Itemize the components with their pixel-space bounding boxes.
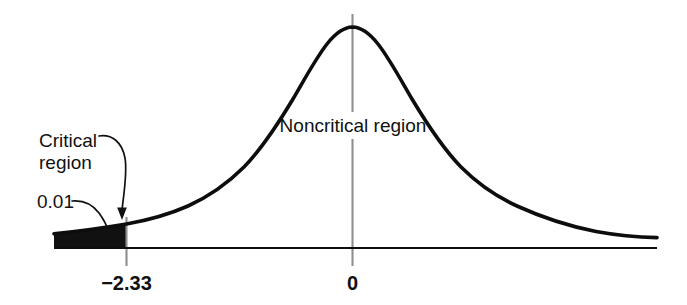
noncritical-region-label: Noncritical region	[280, 115, 427, 136]
alpha-value-label: 0.01	[37, 191, 74, 212]
x-tick-label-critical-value: −2.33	[101, 272, 152, 294]
x-tick-label-mean: 0	[347, 272, 358, 294]
critical-region-label-line1: Critical	[39, 130, 97, 151]
critical-region-label-line2: region	[39, 152, 92, 173]
distribution-chart-canvas: Critical region 0.01 Noncritical region …	[0, 0, 687, 305]
normal-distribution-figure: Critical region 0.01 Noncritical region …	[0, 0, 687, 305]
critical-region-leader-line	[99, 136, 126, 210]
critical-region-leader-arrowhead	[117, 208, 127, 221]
